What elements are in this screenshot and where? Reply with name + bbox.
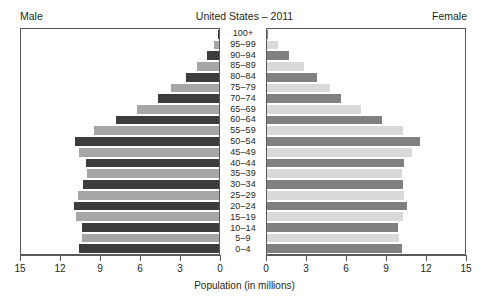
female-bar-row — [267, 222, 465, 233]
male-bar — [74, 202, 219, 211]
age-group-label: 25–29 — [220, 190, 266, 201]
population-pyramid-chart: Male United States – 2011 Female 100+95–… — [0, 0, 489, 299]
age-group-label: 35–39 — [220, 169, 266, 180]
female-axis-tick-label: 0 — [263, 262, 269, 276]
female-side-label: Female — [432, 9, 467, 23]
male-bar — [87, 169, 219, 178]
age-group-label: 65–69 — [220, 104, 266, 115]
male-bar — [158, 94, 219, 103]
female-x-tick-labels: 03691215 — [266, 262, 466, 276]
female-bar — [267, 73, 317, 82]
male-bar — [82, 223, 219, 232]
female-bar — [267, 126, 403, 135]
female-bar — [267, 180, 403, 189]
female-axis-tick — [426, 255, 427, 261]
male-axis-tick — [60, 255, 61, 261]
male-axis-tick — [180, 255, 181, 261]
female-bar — [267, 223, 398, 232]
male-bar — [171, 84, 219, 93]
female-bar — [267, 137, 420, 146]
male-bar-row — [21, 104, 219, 115]
female-bar — [267, 116, 382, 125]
female-bar-row — [267, 115, 465, 126]
male-bar-row — [21, 168, 219, 179]
male-bar — [79, 244, 219, 253]
male-axis-tick — [20, 255, 21, 261]
female-bar-row — [267, 104, 465, 115]
male-bar-row — [21, 93, 219, 104]
male-bar-rows — [21, 29, 219, 254]
male-bar-row — [21, 211, 219, 222]
female-bar-row — [267, 158, 465, 169]
male-bar — [79, 148, 219, 157]
male-axis-tick — [220, 255, 221, 261]
female-bar-row — [267, 125, 465, 136]
age-group-label: 100+ — [220, 28, 266, 39]
age-group-label: 70–74 — [220, 93, 266, 104]
male-bar-row — [21, 50, 219, 61]
chart-title: United States – 2011 — [0, 9, 489, 23]
male-bar-row — [21, 125, 219, 136]
male-bar-row — [21, 147, 219, 158]
male-bar — [214, 41, 219, 50]
male-bar-row — [21, 201, 219, 212]
male-axis-tick-label: 15 — [14, 262, 25, 276]
male-bar-row — [21, 72, 219, 83]
male-bar-row — [21, 158, 219, 169]
female-bar-row — [267, 93, 465, 104]
female-bar — [267, 212, 403, 221]
female-bar — [267, 62, 304, 71]
age-group-label: 90–94 — [220, 50, 266, 61]
male-bar-row — [21, 83, 219, 94]
female-bar-row — [267, 211, 465, 222]
female-bar — [267, 148, 412, 157]
female-axis-tick — [466, 255, 467, 261]
female-bar-row — [267, 29, 465, 40]
female-bar — [267, 244, 402, 253]
female-bar — [267, 191, 404, 200]
age-group-label: 45–49 — [220, 147, 266, 158]
female-axis-tick — [306, 255, 307, 261]
age-group-label: 10–14 — [220, 223, 266, 234]
age-group-label: 20–24 — [220, 201, 266, 212]
age-group-labels: 100+95–9990–9485–8980–8475–7970–7465–696… — [220, 28, 266, 255]
female-bar-row — [267, 72, 465, 83]
female-bar-row — [267, 83, 465, 94]
female-bar-row — [267, 201, 465, 212]
female-bar — [267, 84, 330, 93]
male-x-tick-labels: 15129630 — [20, 262, 220, 276]
age-group-label: 30–34 — [220, 179, 266, 190]
age-group-label: 50–54 — [220, 136, 266, 147]
male-axis-line — [20, 255, 220, 256]
male-bar-row — [21, 190, 219, 201]
female-bar-row — [267, 243, 465, 254]
male-bar-row — [21, 40, 219, 51]
age-group-label: 85–89 — [220, 60, 266, 71]
female-bar — [267, 159, 404, 168]
female-bar-row — [267, 233, 465, 244]
female-bar-row — [267, 61, 465, 72]
male-bar-row — [21, 29, 219, 40]
male-bar — [207, 51, 219, 60]
female-bar-row — [267, 190, 465, 201]
male-bar-row — [21, 136, 219, 147]
male-axis-tick-label: 6 — [137, 262, 143, 276]
male-axis-tick-label: 0 — [217, 262, 223, 276]
female-axis-tick — [266, 255, 267, 261]
female-bar — [267, 202, 407, 211]
male-bar-row — [21, 222, 219, 233]
female-plot-panel — [266, 28, 466, 255]
female-bar — [267, 94, 341, 103]
female-bar — [267, 30, 268, 39]
male-bar — [86, 159, 219, 168]
female-bar-row — [267, 136, 465, 147]
male-bar-row — [21, 115, 219, 126]
female-bar — [267, 105, 361, 114]
male-bar — [82, 234, 219, 243]
male-plot-panel — [20, 28, 220, 255]
age-group-label: 5–9 — [220, 233, 266, 244]
male-x-axis — [20, 255, 220, 262]
male-bar — [83, 180, 219, 189]
female-axis-tick-label: 9 — [383, 262, 389, 276]
age-group-label: 55–59 — [220, 125, 266, 136]
